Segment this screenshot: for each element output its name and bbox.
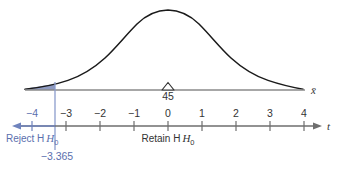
critical-value-label: −3.365 (41, 150, 74, 162)
sample-mean-axis-label: x̄ (310, 84, 316, 96)
sample-mean-marker-triangle-icon (162, 83, 174, 91)
t-axis-tick-label: 2 (233, 107, 239, 119)
reject-region-label-text: Reject H (6, 133, 44, 144)
retain-region-label: Retain HH0 (141, 132, 194, 147)
t-axis-tick-label: −1 (128, 107, 140, 119)
t-axis-tick-label: −3 (60, 107, 72, 119)
t-axis-right-arrow-icon (313, 123, 322, 130)
t-axis-tick-label: −2 (94, 107, 106, 119)
sample-mean-value-label: 45 (162, 90, 174, 102)
t-axis-tick-label: 1 (199, 107, 205, 119)
t-distribution-hypothesis-test-figure: x̄ 45 t −4 −3 −2 −1 0 1 2 3 4 (0, 0, 337, 169)
reject-region-label: Reject HH0 (6, 132, 58, 147)
t-axis-left-arrow-icon (12, 123, 21, 130)
t-distribution-curve (25, 10, 303, 89)
t-axis-label: t (327, 120, 331, 132)
t-axis-tick-label: 0 (165, 107, 171, 119)
t-axis-tick-label: 3 (267, 107, 273, 119)
retain-region-label-text: Retain H (141, 133, 180, 144)
t-axis-tick-label: −4 (26, 107, 38, 119)
t-axis-tick-label: 4 (301, 107, 307, 119)
